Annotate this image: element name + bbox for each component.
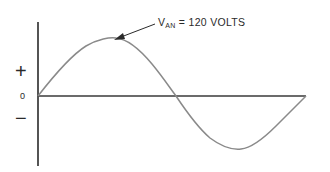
annotation-value: = 120 VOLTS [176, 16, 246, 28]
positive-label: + [15, 60, 27, 83]
sine-wave [38, 38, 306, 149]
annotation-arrowhead-icon [114, 33, 125, 40]
annotation-arrow-line [121, 24, 155, 37]
negative-label: − [15, 107, 27, 130]
zero-label: 0 [20, 91, 25, 101]
annotation-subscript: AN [165, 22, 175, 29]
peak-voltage-annotation: VAN = 120 VOLTS [158, 16, 245, 29]
